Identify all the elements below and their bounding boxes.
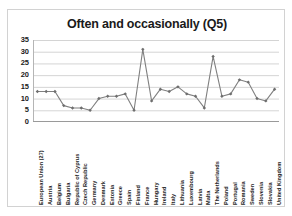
x-axis-tick-label: Italy [165, 123, 174, 207]
plot-area [33, 40, 279, 122]
data-point-marker [106, 95, 109, 98]
data-point-marker [71, 106, 74, 109]
x-axis: European Union (27)AustriaBelgiumBulgari… [33, 123, 279, 207]
x-axis-tick-label: Belgium [51, 123, 60, 207]
data-point-marker [44, 90, 47, 93]
x-axis-tick-label: United Kingdom [270, 123, 279, 207]
line-chart-svg [33, 40, 279, 122]
y-axis-tick: 0 [25, 118, 29, 126]
data-point-marker [141, 48, 144, 51]
x-axis-tick-label: Germany [86, 123, 95, 207]
y-axis-tick: 20 [21, 71, 29, 79]
x-axis-tick-label: Luxembourg [182, 123, 191, 207]
clipped-header-strip: • • • • • • • • • • • • • • • • • • • • … [0, 0, 292, 9]
x-axis-tick-label: Sweden [244, 123, 253, 207]
x-axis-tick-label: Estonia [103, 123, 112, 207]
x-axis-tick-label: Romania [235, 123, 244, 207]
chart-title: Often and occasionally (Q5) [8, 17, 285, 31]
x-axis-tick-label-text: United Kingdom [277, 121, 283, 205]
y-axis-tick: 5 [25, 107, 29, 115]
y-axis-tick: 10 [21, 95, 29, 103]
x-axis-tick-label: Slovenia [253, 123, 262, 207]
data-point-marker [220, 95, 223, 98]
x-axis-tick-label: Finland [130, 123, 139, 207]
x-axis-tick-label: Slovakia [261, 123, 270, 207]
chart-frame: Often and occasionally (Q5) 051015202530… [7, 9, 285, 207]
x-axis-tick-label: Denmark [95, 123, 104, 207]
data-point-marker [36, 90, 39, 93]
x-axis-tick-label: Bulgaria [59, 123, 68, 207]
y-axis-tick: 35 [21, 36, 29, 44]
x-axis-tick-label: Poland [218, 123, 227, 207]
y-axis: 05101520253035 [8, 40, 31, 122]
data-point-marker [115, 95, 118, 98]
y-axis-tick: 25 [21, 60, 29, 68]
y-axis-tick: 15 [21, 83, 29, 91]
x-axis-tick-label: France [138, 123, 147, 207]
screenshot-root: • • • • • • • • • • • • • • • • • • • • … [0, 0, 292, 216]
x-axis-tick-label: The Netherlands [209, 123, 218, 207]
x-axis-tick-label: Austria [42, 123, 51, 207]
x-axis-tick-label: Lithuania [174, 123, 183, 207]
x-axis-tick-label: Ireland [156, 123, 165, 207]
y-axis-tick: 30 [21, 48, 29, 56]
x-axis-tick-label: Czech Republic [77, 123, 86, 207]
x-axis-tick-label: Latvia [191, 123, 200, 207]
x-axis-tick-label: Spain [121, 123, 130, 207]
x-axis-tick-label: Malta [200, 123, 209, 207]
x-axis-tick-label: European Union (27) [33, 123, 42, 207]
data-point-marker [211, 55, 214, 58]
x-axis-tick-label: Greece [112, 123, 121, 207]
x-axis-tick-label: Hungary [147, 123, 156, 207]
x-axis-tick-label: Portugal [226, 123, 235, 207]
x-axis-tick-label: Republic of Cyprus [68, 123, 77, 207]
data-point-marker [80, 106, 83, 109]
